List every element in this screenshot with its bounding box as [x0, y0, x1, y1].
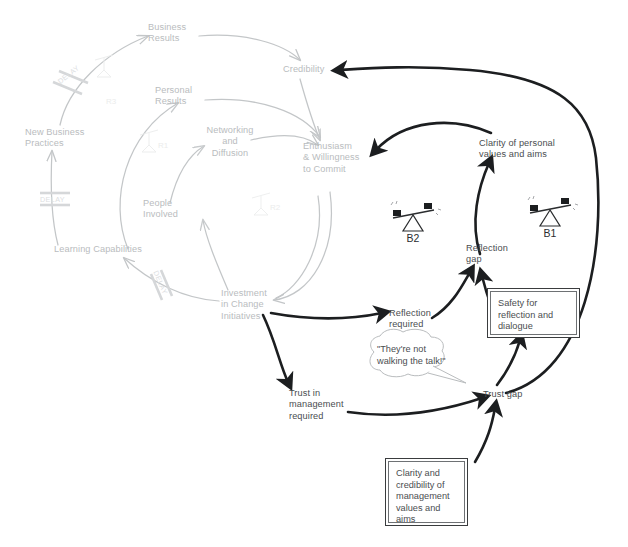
arc-investment-to-people [203, 220, 228, 290]
node-reflection-required[interactable]: Reflection required [389, 308, 453, 331]
causal-loop-diagram: Business Results Personal Results Networ… [0, 0, 628, 547]
boxed-note-clarity-credibility-text: Clarity and credibility of management va… [388, 461, 465, 523]
arc-trust-required-to-trustgap [348, 398, 482, 415]
arc-investment-to-trust-required [263, 315, 288, 382]
background-loop-layer [0, 0, 628, 547]
node-investment-in-change-initiatives[interactable]: Investment in Change Initiatives [221, 288, 287, 322]
arc-clarity-credibility-to-trustgap [475, 408, 495, 462]
node-trust-in-management-required[interactable]: Trust in management required [289, 388, 359, 422]
loop-label-r3: R3 [106, 97, 116, 106]
arc-trustgap-to-safety [497, 340, 520, 385]
boxed-note-safety-for-reflection-and-dialogue[interactable]: Safety for reflection and dialogue [487, 288, 580, 338]
arc-reflectiongap-to-clarity [475, 163, 489, 254]
loop-label-b2: B2 [393, 232, 433, 244]
node-new-business-practices[interactable]: New Business Practices [25, 127, 109, 150]
speech-bubble-walking-the-talk[interactable]: "They're not walking the talk!" [377, 343, 449, 367]
node-personal-results[interactable]: Personal Results [155, 85, 225, 108]
boxed-note-safety-text: Safety for reflection and dialogue [490, 291, 577, 335]
node-clarity-of-personal-values-and-aims[interactable]: Clarity of personal values and aims [479, 138, 575, 161]
node-reflection-gap[interactable]: Reflection gap [466, 243, 526, 266]
arc-enthusiasm-to-investment [274, 192, 331, 300]
arc-new-practices-to-business-results [60, 36, 148, 125]
node-enthusiasm-and-willingness-to-commit[interactable]: Enthusiasm & Willingness to Commit [303, 141, 379, 175]
node-credibility[interactable]: Credibility [283, 64, 351, 75]
balance-icon-b2 [391, 201, 441, 231]
delay-marker-mid: DELAY [40, 195, 65, 204]
node-people-involved[interactable]: People Involved [143, 198, 203, 221]
loop-label-b1: B1 [530, 227, 570, 239]
arc-investment-to-reflection-required [271, 313, 382, 318]
loop-label-r1: R1 [158, 141, 168, 150]
arc-clarity-values-to-enthusiasm [376, 123, 491, 150]
balance-icon-b1 [528, 196, 578, 226]
arc-credibility-to-enthusiasm [300, 79, 320, 140]
arc-enthusiasm-inner-r2 [276, 196, 319, 298]
loop-label-r2: R2 [270, 203, 280, 212]
node-trust-gap[interactable]: Trust gap [483, 389, 545, 400]
arc-learning-to-personal-results [120, 103, 178, 249]
node-networking-and-diffusion[interactable]: Networking and Diffusion [196, 125, 264, 159]
node-business-results[interactable]: Business Results [148, 22, 218, 45]
node-learning-capabilities[interactable]: Learning Capabilities [54, 244, 164, 255]
boxed-note-clarity-and-credibility-of-management-values-and-aims[interactable]: Clarity and credibility of management va… [385, 458, 468, 526]
